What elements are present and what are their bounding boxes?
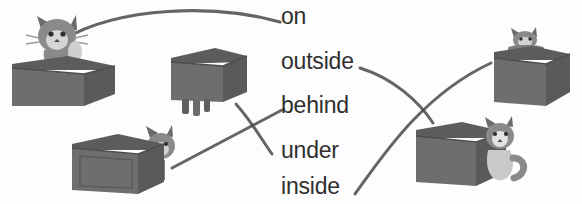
cat-legs-icon: [182, 99, 210, 116]
box-icon: [494, 46, 570, 106]
box-icon: [12, 56, 115, 106]
illustration-cat-in-box-top-left: [6, 6, 121, 111]
word-inside[interactable]: inside: [281, 175, 340, 198]
box-icon: [72, 134, 164, 194]
illustration-box-with-legs-middle: [163, 42, 251, 117]
preposition-matching-worksheet: on outside behind under inside: [0, 0, 582, 204]
box-icon: [171, 48, 247, 102]
word-outside[interactable]: outside: [281, 50, 354, 73]
word-behind[interactable]: behind: [281, 94, 349, 117]
illustration-cat-beside-box-lower-right: [414, 114, 530, 198]
preposition-word-list: on outside behind under inside: [281, 0, 401, 204]
illustration-cat-behind-box-lower-left: [66, 120, 184, 202]
word-on[interactable]: on: [281, 5, 306, 28]
illustration-cat-on-box-top-right: [486, 24, 578, 110]
word-under[interactable]: under: [281, 139, 339, 162]
